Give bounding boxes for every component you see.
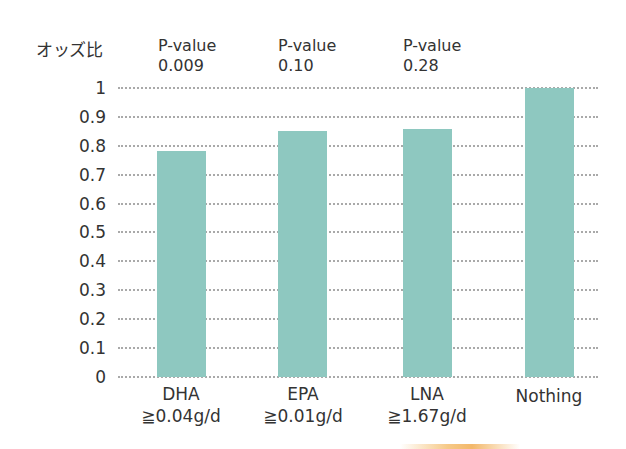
y-tick: 0.8: [66, 137, 106, 155]
pvalue-annotation-lna: P-value 0.28: [403, 36, 461, 76]
bar-lna: [403, 129, 452, 377]
pvalue-annotation-epa: P-value 0.10: [278, 36, 336, 76]
y-tick: 0.1: [66, 339, 106, 357]
bar-epa: [278, 131, 327, 377]
x-category-lna: LNA ≧1.67g/d: [367, 383, 487, 427]
pvalue-value: 0.009: [158, 56, 216, 76]
category-name: EPA: [243, 383, 363, 405]
y-tick: 0.7: [66, 166, 106, 184]
y-tick: 0.4: [66, 252, 106, 270]
bar-nothing: [525, 88, 574, 377]
pvalue-value: 0.10: [278, 56, 336, 76]
y-tick: 0: [66, 368, 106, 386]
x-category-dha: DHA ≧0.04g/d: [121, 383, 241, 427]
y-axis-title: オッズ比: [36, 36, 102, 61]
category-name: LNA: [367, 383, 487, 405]
x-category-epa: EPA ≧0.01g/d: [243, 383, 363, 427]
category-name: Nothing: [489, 385, 609, 407]
y-tick: 0.9: [66, 108, 106, 126]
pvalue-label: P-value: [278, 36, 336, 56]
pvalue-label: P-value: [158, 36, 216, 56]
pvalue-value: 0.28: [403, 56, 461, 76]
decorative-strip: [400, 444, 520, 449]
category-threshold: ≧0.01g/d: [243, 405, 363, 427]
y-tick: 0.2: [66, 310, 106, 328]
bar-dha: [157, 151, 206, 377]
pvalue-annotation-dha: P-value 0.009: [158, 36, 216, 76]
y-tick: 0.6: [66, 195, 106, 213]
category-threshold: ≧1.67g/d: [367, 405, 487, 427]
pvalue-label: P-value: [403, 36, 461, 56]
y-tick: 0.5: [66, 223, 106, 241]
x-category-nothing: Nothing: [489, 385, 609, 407]
category-name: DHA: [121, 383, 241, 405]
y-tick: 1: [66, 79, 106, 97]
category-threshold: ≧0.04g/d: [121, 405, 241, 427]
y-tick: 0.3: [66, 281, 106, 299]
